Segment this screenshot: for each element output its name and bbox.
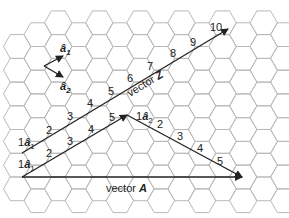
hexagon-cell — [250, 130, 277, 154]
z-tick-10: 10 — [210, 21, 222, 33]
hexagon-cell — [168, 82, 195, 106]
hexagon-cell — [127, 35, 154, 59]
hexagon-cell — [4, 58, 31, 82]
hexagon-cell — [24, 94, 51, 118]
hexagon-cell — [250, 11, 277, 35]
hexagon-cell — [45, 11, 73, 35]
hexagon-cell — [271, 47, 289, 71]
unit-vector-a2-arrow — [44, 66, 63, 77]
hexagon-cell — [209, 130, 236, 154]
hexagon-cell — [250, 35, 277, 59]
hexagon-cell — [230, 141, 257, 165]
hexagon-cell — [271, 70, 289, 94]
hexagon-cell — [86, 58, 113, 82]
hexagon-cell — [271, 94, 289, 118]
a1-label: â1 — [60, 42, 71, 57]
hexagon-cell — [147, 23, 174, 47]
hexagon-cell — [230, 118, 257, 142]
a1-tick-3: 3 — [67, 135, 73, 147]
diagram-canvas: â1 â2 1â1 2 3 4 5 6 7 8 9 10 vector Z 1â… — [0, 0, 289, 218]
hexagon-cell — [250, 82, 277, 106]
a2-label: â2 — [60, 80, 71, 95]
hexagon-cell — [168, 153, 195, 177]
hexagon-cell — [271, 141, 289, 165]
z-tick-8: 8 — [170, 47, 176, 59]
vector-a-label: vector A — [106, 182, 147, 194]
hexagon-cell — [250, 58, 277, 82]
hexagon-cell — [65, 189, 92, 213]
z-tick-6: 6 — [127, 72, 133, 84]
hexagon-cell — [188, 70, 215, 94]
z-tick-9: 9 — [190, 36, 196, 48]
hexagon-cell — [106, 47, 133, 71]
hexagon-cell — [230, 94, 257, 118]
hexagon-cell — [127, 153, 154, 177]
hexagon-cell — [24, 47, 51, 71]
a1-tick-1: 1â1 — [18, 158, 35, 173]
hexagon-cell — [250, 153, 277, 177]
hexagon-cell — [188, 189, 215, 213]
hexagon-cell — [230, 47, 257, 71]
hexagon-cell — [230, 23, 257, 47]
hexagon-cell — [4, 35, 31, 59]
a1-tick-4: 4 — [88, 123, 94, 135]
hexagon-cell — [209, 58, 236, 82]
a2-tick-5: 5 — [217, 155, 223, 167]
hexagon-cell — [106, 23, 133, 47]
hexagon-cell — [168, 11, 195, 35]
hexagon-cell — [127, 130, 154, 154]
hexagon-cell — [147, 189, 174, 213]
hexagon-cell — [250, 177, 277, 201]
hexagon-cell — [209, 177, 236, 201]
hexagon-cell — [4, 82, 31, 106]
hexagon-cell — [168, 106, 195, 130]
a1-tick-5: 5 — [109, 111, 115, 123]
hexagon-cell — [106, 141, 133, 165]
hexagon-cell — [86, 11, 113, 35]
hexagon-cell — [24, 189, 51, 213]
z-tick-7: 7 — [147, 60, 153, 72]
hexagon-cell — [45, 177, 73, 201]
hexagon-cell — [271, 118, 289, 142]
hexagon-cell — [271, 189, 289, 213]
z-tick-3: 3 — [67, 110, 73, 122]
hexagon-cell — [168, 177, 195, 201]
hexagon-cell — [4, 177, 31, 201]
hexagon-cell — [24, 23, 51, 47]
hexagon-cell — [127, 11, 154, 35]
hexagon-cell — [230, 70, 257, 94]
z-tick-4: 4 — [87, 97, 93, 109]
hexagon-cell — [209, 106, 236, 130]
z-tick-2: 2 — [46, 124, 52, 136]
hex-lattice-diagram: â1 â2 1â1 2 3 4 5 6 7 8 9 10 vector Z 1â… — [0, 0, 289, 218]
hexagon-cell — [230, 189, 257, 213]
hexagon-cell — [45, 58, 73, 82]
hexagon-cell — [209, 82, 236, 106]
hexagon-cell — [24, 70, 51, 94]
a2-tick-2: 2 — [157, 118, 163, 130]
hexagon-cell — [271, 23, 289, 47]
vector-z-arrow — [22, 29, 228, 153]
a2-path-arrow — [127, 115, 242, 177]
unit-vector-a1-arrow — [44, 56, 63, 66]
hexagon-cell — [188, 94, 215, 118]
hexagon-cell — [147, 141, 174, 165]
hexagon-cell — [250, 106, 277, 130]
hexagon-cell — [86, 153, 113, 177]
a1-tick-2: 2 — [46, 147, 52, 159]
hexagon-cell — [65, 23, 92, 47]
z-tick-5: 5 — [108, 85, 114, 97]
hexagon-cell — [271, 165, 289, 189]
hexagon-cell — [147, 94, 174, 118]
hexagon-cell — [168, 58, 195, 82]
hexagon-cell — [4, 106, 31, 130]
hexagon-cell — [188, 118, 215, 142]
hexagon-cell — [86, 35, 113, 59]
a2-tick-3: 3 — [177, 130, 183, 142]
a2-tick-4: 4 — [197, 142, 203, 154]
